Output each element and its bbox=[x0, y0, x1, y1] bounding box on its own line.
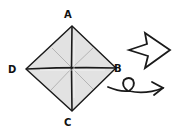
label-c: C bbox=[64, 117, 71, 128]
turn-over-loop-arrow-icon bbox=[108, 78, 163, 95]
origami-diagram: A B C D bbox=[0, 0, 180, 135]
label-a: A bbox=[64, 9, 72, 20]
label-d: D bbox=[8, 64, 16, 75]
hollow-push-arrow-icon bbox=[129, 33, 170, 68]
fold-lines bbox=[26, 26, 116, 111]
label-b: B bbox=[114, 63, 122, 74]
